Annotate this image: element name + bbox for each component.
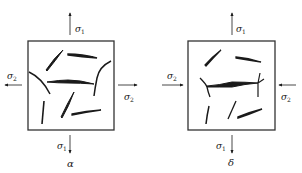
crack [46, 50, 63, 71]
crack [238, 109, 262, 118]
label-top-b: σ 1 [236, 24, 246, 35]
crack [42, 101, 44, 124]
panel-a: σ 1 σ 1 σ 2 σ 2 α [5, 13, 137, 169]
crack [228, 101, 236, 119]
crack [258, 73, 264, 97]
cracks-b [200, 50, 264, 124]
label-top-a: σ 1 [75, 24, 85, 35]
svg-text:1: 1 [242, 28, 246, 35]
svg-text:1: 1 [63, 145, 67, 152]
svg-text:1: 1 [81, 28, 85, 35]
caption-b: δ [228, 157, 234, 168]
crack [47, 80, 94, 84]
svg-text:2: 2 [287, 96, 291, 103]
crack [94, 61, 111, 96]
crack [207, 82, 258, 87]
crack [205, 50, 221, 66]
label-left-a: σ 2 [7, 71, 17, 82]
crack [29, 72, 50, 94]
svg-text:2: 2 [173, 75, 177, 82]
crack [68, 54, 97, 58]
label-right-b: σ 2 [281, 92, 291, 103]
cracks-a [29, 50, 111, 124]
stress-crack-diagram: σ 1 σ 1 σ 2 σ 2 α [0, 0, 302, 173]
svg-text:2: 2 [13, 75, 17, 82]
panel-b: σ 1 σ 1 σ 2 σ 2 δ [162, 13, 296, 168]
label-right-a: σ 2 [124, 92, 134, 103]
crack [206, 106, 209, 124]
svg-text:2: 2 [130, 96, 134, 103]
label-bottom-a: σ 1 [57, 141, 67, 152]
crack [236, 57, 261, 62]
crack [72, 110, 101, 115]
label-left-b: σ 2 [167, 71, 177, 82]
label-bottom-b: σ 1 [216, 141, 226, 152]
svg-text:1: 1 [222, 145, 226, 152]
caption-a: α [67, 158, 74, 169]
